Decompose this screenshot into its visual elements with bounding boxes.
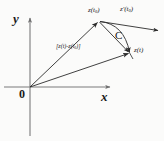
origin-label: 0: [19, 88, 25, 100]
figure-canvas: [0, 0, 164, 141]
curve-label-C: C: [115, 30, 122, 41]
tangent-vector-label: z′(t0): [120, 6, 133, 13]
y-axis-label: y: [13, 12, 19, 25]
point-label-z-t: z(t): [134, 47, 143, 54]
point-label-z-t0: z(t0): [88, 7, 100, 14]
z-t-terminal-tick: [128, 50, 133, 59]
complex-plane-curve-figure: y x 0 z(t0) z′(t0) [z(t)-z(t0)] C z(t): [0, 0, 164, 141]
position-vector-z-t0: [30, 23, 98, 88]
chord-vector-label: [z(t)-z(t0)]: [56, 43, 81, 50]
x-axis-label: x: [101, 90, 108, 103]
axes-group: [4, 18, 110, 136]
position-vector-z-t: [30, 54, 129, 88]
tangent-vector: [100, 22, 158, 31]
